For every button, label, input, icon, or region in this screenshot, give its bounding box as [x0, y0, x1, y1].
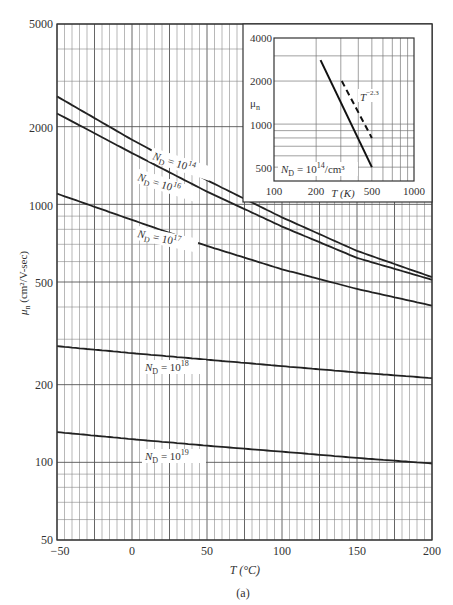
x-tick-100: 100: [273, 544, 291, 558]
inset-x-tick-500: 500: [364, 185, 381, 197]
inset-x-tick-200: 200: [308, 185, 325, 197]
y-tick-1000: 1000: [29, 199, 53, 213]
inset-y-tick-500: 500: [256, 162, 273, 174]
x-tick-labels: −50 0 50 100 150 200: [51, 544, 441, 558]
x-tick-0: 0: [129, 544, 135, 558]
x-axis-title: T (°C): [230, 563, 260, 577]
inset-y-tick-2000: 2000: [250, 75, 273, 87]
inset-nd-label: ND = 1014/cm³: [278, 161, 358, 178]
y-tick-200: 200: [35, 378, 53, 392]
curve-label-1e19: ND = 1019: [142, 448, 206, 465]
curve-label-1e18: ND = 1018: [142, 359, 206, 376]
y-tick-5000: 5000: [29, 17, 53, 31]
curve-labels: ND = 1014 ND = 1016 ND = 1017 ND = 1018 …: [133, 147, 214, 465]
x-tick-200: 200: [423, 544, 441, 558]
inset-y-tick-1000: 1000: [250, 119, 273, 131]
x-tick-150: 150: [348, 544, 366, 558]
y-tick-labels: 5000 2000 1000 500 200 100 50: [29, 17, 53, 547]
x-tick-neg50: −50: [51, 544, 70, 558]
inset-power-label: T−2.3: [358, 89, 380, 103]
inset-y-tick-4000: 4000: [250, 32, 273, 44]
inset-x-axis-title: T (K): [331, 187, 355, 200]
inset: 4000 2000 1000 500 μn 100 200 500 1000 T…: [243, 24, 432, 202]
svg-text:μn (cm²/V-sec): μn (cm²/V-sec): [17, 251, 32, 316]
figure-caption: (a): [236, 586, 249, 600]
mobility-chart: 5000 2000 1000 500 200 100 50 −50 0 50 1…: [0, 0, 453, 605]
y-axis-units: (cm²/V-sec): [17, 251, 30, 306]
y-tick-500: 500: [35, 276, 53, 290]
inset-x-tick-100: 100: [266, 185, 283, 197]
x-tick-50: 50: [201, 544, 213, 558]
inset-x-tick-1000: 1000: [403, 185, 426, 197]
y-tick-100: 100: [35, 455, 53, 469]
y-tick-2000: 2000: [29, 121, 53, 135]
y-axis-title: μn (cm²/V-sec): [17, 251, 32, 316]
